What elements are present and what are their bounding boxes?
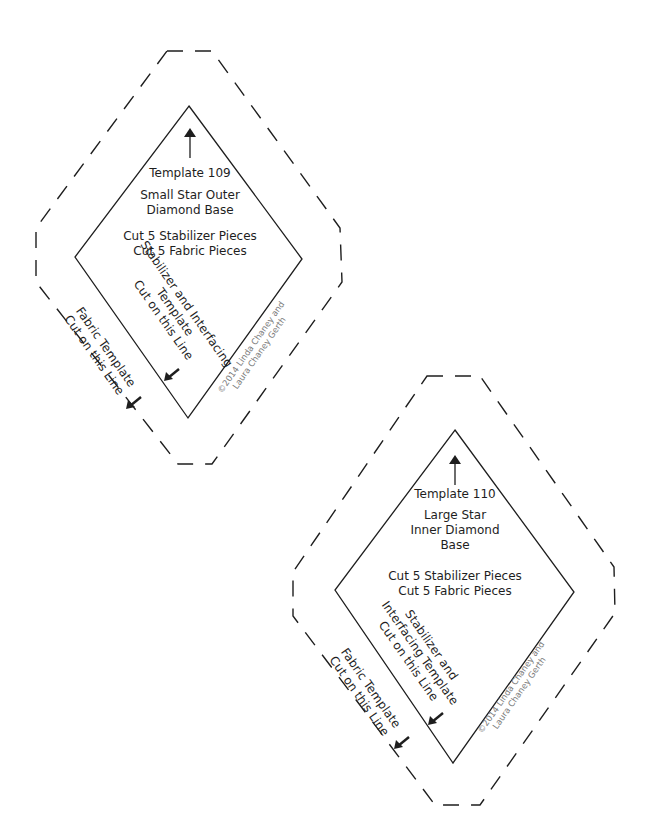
template-drawing xyxy=(0,0,651,839)
template-name: Large Star Inner Diamond Base xyxy=(375,508,535,553)
template-name-line: Small Star Outer xyxy=(110,188,270,203)
template-name-line: Diamond Base xyxy=(110,203,270,218)
template-name: Small Star Outer Diamond Base xyxy=(110,188,270,218)
arrow-down-left-icon xyxy=(164,369,179,381)
template-name-line: Large Star xyxy=(375,508,535,523)
template-number: Template 110 xyxy=(395,487,515,502)
template-number: Template 109 xyxy=(130,166,250,181)
template-name-line: Base xyxy=(375,538,535,553)
arrow-up-icon xyxy=(184,128,196,158)
template-name-line: Inner Diamond xyxy=(375,523,535,538)
arrow-up-icon xyxy=(449,455,461,485)
